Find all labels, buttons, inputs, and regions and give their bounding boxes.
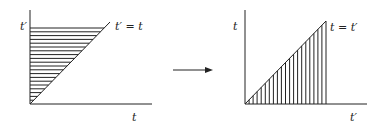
arrow-head-icon (205, 67, 213, 73)
left-line-label: t′ = t (115, 21, 143, 32)
left-x-axis-label: t (132, 112, 136, 123)
diagram-canvas (0, 0, 383, 129)
transform-arrow (173, 67, 213, 73)
left-y-axis-label: t′ (20, 21, 27, 32)
left-diagonal-line (30, 22, 110, 104)
right-line-label: t = t′ (330, 22, 358, 33)
right-x-axis-label: t′ (350, 112, 357, 123)
right-y-axis-label: t (233, 21, 237, 32)
